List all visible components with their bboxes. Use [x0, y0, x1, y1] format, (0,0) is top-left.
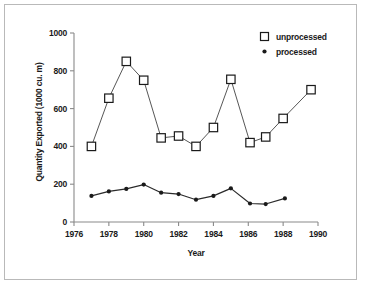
legend-label-unprocessed: unprocessed — [276, 32, 327, 42]
data-point-unprocessed — [122, 57, 130, 65]
data-point-unprocessed — [105, 94, 113, 102]
y-tick-label: 0 — [62, 217, 67, 227]
data-point-unprocessed — [246, 138, 254, 146]
y-tick-label: 1000 — [49, 28, 67, 38]
data-point-processed — [124, 187, 128, 191]
series-line-processed — [91, 185, 284, 204]
y-tick-label: 400 — [53, 141, 67, 151]
data-point-unprocessed — [307, 86, 315, 94]
data-point-unprocessed — [279, 114, 287, 122]
legend-marker-open-square — [258, 30, 272, 44]
data-point-unprocessed — [174, 132, 182, 140]
axis-spines — [74, 33, 318, 222]
x-tick-label: 1978 — [91, 229, 127, 239]
x-axis-title: Year — [74, 248, 318, 258]
y-tick-label: 600 — [53, 104, 67, 114]
x-tick-label: 1980 — [126, 229, 162, 239]
x-tick-label: 1982 — [161, 229, 197, 239]
data-point-processed — [283, 196, 287, 200]
x-tick-label: 1990 — [300, 229, 336, 239]
data-point-processed — [248, 201, 252, 205]
data-point-unprocessed — [157, 134, 165, 142]
data-point-processed — [264, 202, 268, 206]
data-point-processed — [229, 186, 233, 190]
data-point-unprocessed — [140, 76, 148, 84]
legend-marker-filled-circle — [258, 45, 272, 59]
y-axis-title: Quantity Exported (1000 cu. m) — [34, 47, 44, 197]
data-point-processed — [107, 189, 111, 193]
data-point-processed — [194, 198, 198, 202]
data-point-unprocessed — [87, 142, 95, 150]
data-point-processed — [176, 192, 180, 196]
data-point-processed — [211, 194, 215, 198]
data-point-processed — [142, 182, 146, 186]
data-point-unprocessed — [192, 142, 200, 150]
legend-label-processed: processed — [276, 47, 317, 57]
y-tick-label: 800 — [53, 66, 67, 76]
x-tick-label: 1988 — [265, 229, 301, 239]
data-point-unprocessed — [227, 75, 235, 83]
data-point-processed — [159, 191, 163, 195]
y-tick-label: 200 — [53, 179, 67, 189]
series-line-unprocessed — [91, 61, 311, 146]
x-tick-label: 1976 — [56, 229, 92, 239]
data-point-unprocessed — [209, 123, 217, 131]
x-tick-label: 1984 — [195, 229, 231, 239]
data-point-unprocessed — [262, 133, 270, 141]
x-tick-label: 1986 — [230, 229, 266, 239]
data-point-processed — [89, 194, 93, 198]
